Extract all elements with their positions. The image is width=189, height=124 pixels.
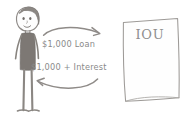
right-foot — [29, 110, 39, 111]
sketch-canvas: IOU $1,000 Loan $1,000 + Interest — [0, 0, 189, 124]
left-eye-icon — [22, 17, 24, 20]
left-leg — [23, 70, 24, 110]
repayment-arrow-shaft — [39, 79, 98, 88]
repayment-arrow — [37, 78, 97, 88]
loan-arrow-label: $1,000 Loan — [42, 39, 95, 49]
repayment-arrow-label: $1,000 + Interest — [31, 62, 107, 72]
iou-label: IOU — [135, 27, 164, 42]
loan-arrow-shaft — [44, 28, 99, 36]
sketch-svg: IOU $1,000 Loan $1,000 + Interest — [0, 0, 189, 124]
right-eye-icon — [29, 17, 31, 20]
right-leg — [32, 70, 33, 110]
iou-paper: IOU — [123, 19, 179, 102]
borrower-stick-figure — [16, 7, 40, 111]
loan-arrow — [44, 28, 100, 36]
